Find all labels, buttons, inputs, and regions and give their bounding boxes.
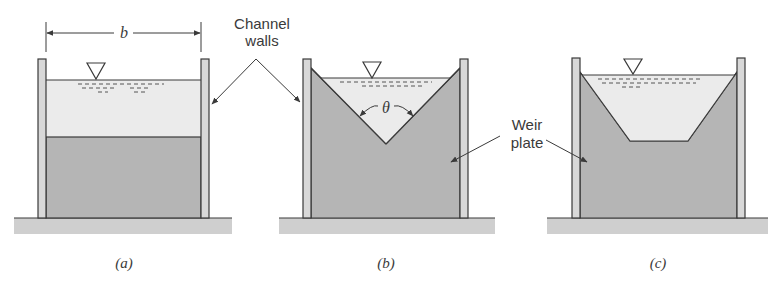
panel-a: b (a) — [14, 22, 232, 272]
right-wall-a — [201, 59, 209, 218]
left-wall-c — [572, 58, 580, 218]
angle-symbol: θ — [382, 99, 390, 116]
channel-walls-callout: Channel walls — [212, 15, 300, 104]
channel-walls-label-line1: Channel — [234, 15, 290, 32]
caption-c: (c) — [650, 255, 667, 272]
arrow-to-wall-b — [256, 59, 300, 102]
weir-diagram: b (a) θ (b) — [0, 0, 780, 284]
ground-a — [14, 218, 232, 234]
ground-c — [547, 218, 768, 234]
right-wall-b — [460, 59, 468, 218]
caption-a: (a) — [115, 255, 133, 272]
panel-c: (c) — [547, 58, 768, 272]
panel-b: θ (b) — [279, 59, 495, 272]
arrow-to-wall-a — [212, 59, 256, 104]
left-wall-b — [303, 59, 311, 218]
water-surface-icon — [624, 59, 642, 74]
weir-plate-label-line1: Weir — [512, 116, 543, 133]
width-symbol: b — [120, 24, 128, 41]
right-wall-c — [737, 58, 745, 218]
channel-walls-label-line2: walls — [244, 32, 278, 49]
weir-plate-callout: Weir plate — [451, 116, 587, 162]
water-surface-icon — [87, 63, 105, 79]
weir-plate-a — [46, 137, 201, 218]
left-wall-a — [38, 59, 46, 218]
weir-plate-label-line2: plate — [511, 134, 544, 151]
caption-b: (b) — [377, 255, 395, 272]
water-a — [46, 80, 201, 137]
water-surface-icon — [363, 62, 381, 78]
ground-b — [279, 218, 495, 234]
